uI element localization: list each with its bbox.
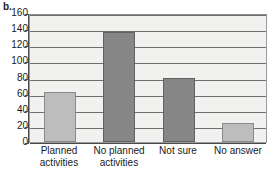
bar-chart-figure: b. 020406080100120140160 Plannedactiviti…	[0, 0, 274, 178]
x-label-line-1: Planned	[29, 145, 89, 157]
y-tick-label-160: 160	[4, 8, 28, 18]
y-tick-mark-120	[25, 46, 28, 47]
x-label-no-planned-activities: No plannedactivities	[89, 145, 149, 169]
y-tick-label-40: 40	[4, 105, 28, 115]
y-tick-label-0: 0	[4, 137, 28, 147]
x-label-line-2: activities	[89, 157, 149, 169]
gridline-80	[30, 80, 266, 81]
gridline-100	[30, 63, 266, 64]
gridline-120	[30, 47, 266, 48]
x-label-line-1: No answer	[208, 145, 268, 157]
y-tick-label-20: 20	[4, 121, 28, 131]
y-tick-label-80: 80	[4, 73, 28, 83]
gridline-140	[30, 31, 266, 32]
y-tick-mark-160	[25, 14, 28, 15]
x-label-line-1: No planned	[89, 145, 149, 157]
y-tick-mark-100	[25, 62, 28, 63]
x-label-line-2: activities	[29, 157, 89, 169]
y-tick-mark-20	[25, 127, 28, 128]
x-label-not-sure: Not sure	[148, 145, 208, 157]
x-label-planned-activities: Plannedactivities	[29, 145, 89, 169]
bar-no-answer	[222, 123, 254, 142]
x-label-line-1: Not sure	[148, 145, 208, 157]
bar-not-sure	[163, 78, 195, 142]
plot-area	[29, 14, 267, 143]
bar-planned-activities	[44, 92, 76, 142]
gridline-0	[30, 143, 266, 144]
x-axis-labels: PlannedactivitiesNo plannedactivitiesNot…	[29, 145, 267, 177]
y-tick-mark-140	[25, 30, 28, 31]
bar-no-planned-activities	[103, 32, 135, 142]
y-tick-mark-60	[25, 95, 28, 96]
y-tick-mark-80	[25, 79, 28, 80]
x-label-no-answer: No answer	[208, 145, 268, 157]
y-axis-ticks: 020406080100120140160	[0, 0, 28, 178]
y-tick-label-60: 60	[4, 89, 28, 99]
y-tick-mark-40	[25, 111, 28, 112]
gridline-160	[30, 15, 266, 16]
y-tick-mark-0	[25, 143, 28, 144]
